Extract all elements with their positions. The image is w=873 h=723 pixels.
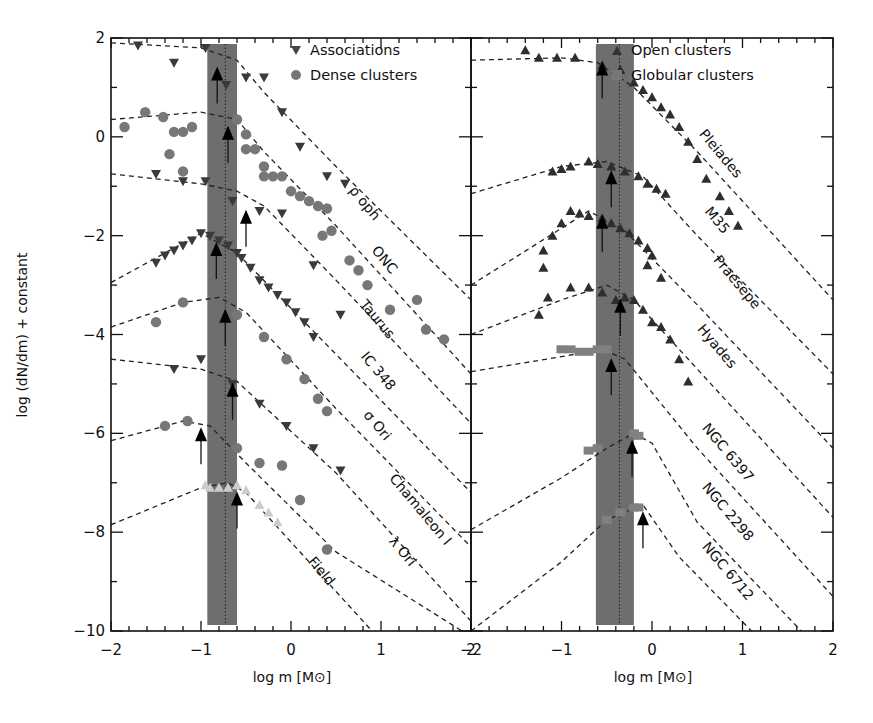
data-point-triangle-down (309, 261, 319, 270)
x-tick-label: −2 (460, 641, 482, 659)
data-point-triangle-up (715, 191, 725, 200)
fit-curve-chamaleon-i (111, 359, 471, 621)
x-tick-label: −1 (550, 641, 572, 659)
data-point-triangle-up (724, 206, 734, 215)
data-point-triangle-up (642, 243, 652, 252)
data-point-circle (259, 171, 269, 181)
curve-label: ρ oph (346, 182, 384, 223)
data-point-circle (187, 122, 197, 132)
data-point-square (593, 444, 603, 452)
legend-triangle-down-icon (291, 46, 301, 55)
data-point-triangle-down (196, 355, 206, 364)
data-point-circle (232, 310, 242, 320)
data-point-square (566, 345, 576, 353)
data-point-circle (412, 295, 422, 305)
data-point-triangle-up (264, 507, 274, 516)
data-point-circle (281, 354, 291, 364)
data-point-circle (232, 443, 242, 453)
right-panel: PleiadesM35PraesepeHyadesNGC 6397NGC 229… (460, 38, 838, 659)
data-point-triangle-up (566, 206, 576, 215)
data-point-triangle-up (633, 171, 643, 180)
data-point-circle (241, 129, 251, 139)
data-point-triangle-down (255, 276, 265, 285)
data-point-square (633, 503, 643, 511)
y-tick-label: 0 (95, 128, 105, 146)
data-point-circle (164, 149, 174, 159)
data-point-triangle-up (665, 334, 675, 343)
y-tick-label: 2 (95, 29, 105, 47)
data-point-triangle-down (178, 242, 188, 251)
fit-curve-onc (111, 112, 471, 374)
data-point-triangle-down (133, 41, 143, 50)
data-point-triangle-down (282, 298, 292, 307)
plot-frame (111, 38, 471, 631)
data-point-triangle-up (255, 500, 265, 509)
data-point-circle (322, 406, 332, 416)
data-point-circle (385, 305, 395, 315)
data-point-triangle-down (336, 311, 346, 320)
shaded-mass-band (207, 44, 237, 625)
data-point-triangle-up (584, 283, 594, 292)
data-point-circle (299, 374, 309, 384)
x-axis-label-right: log m [M⊙] (614, 669, 693, 685)
y-axis-label: log (dN/dm) + constant (14, 252, 30, 417)
data-point-circle (241, 144, 251, 154)
curve-label: NGC 6397 (699, 420, 757, 485)
data-point-triangle-down (169, 365, 179, 374)
legend-label: Open clusters (631, 42, 731, 58)
data-point-circle (322, 544, 332, 554)
legend-label: Globular clusters (631, 67, 754, 83)
data-point-circle (304, 196, 314, 206)
data-point-triangle-down (291, 308, 301, 317)
data-point-triangle-down (309, 333, 319, 342)
data-point-triangle-up (692, 154, 702, 163)
data-point-triangle-down (169, 246, 179, 255)
data-point-triangle-up (241, 485, 251, 494)
data-point-triangle-down (169, 59, 179, 68)
series-σ-ori (151, 297, 332, 416)
series-onc (119, 107, 449, 345)
legend-circle-icon (291, 70, 301, 80)
data-point-triangle-up (665, 110, 675, 119)
data-point-triangle-down (340, 180, 350, 189)
curve-label: Hyades (694, 321, 740, 371)
data-point-square (557, 345, 567, 353)
shaded-mass-band (596, 44, 634, 625)
data-point-circle (439, 334, 449, 344)
data-point-triangle-up (633, 236, 643, 245)
data-point-triangle-up (584, 157, 594, 166)
data-point-circle (158, 112, 168, 122)
legend-label: Dense clusters (310, 67, 417, 83)
data-point-circle (362, 280, 372, 290)
data-point-triangle-down (241, 74, 251, 83)
data-point-square (633, 432, 643, 440)
data-point-triangle-down (295, 143, 305, 152)
data-point-circle (344, 255, 354, 265)
data-point-triangle-up (647, 92, 657, 101)
data-point-circle (313, 201, 323, 211)
data-point-square (615, 508, 625, 516)
curve-label: λ Ori (386, 533, 420, 569)
legend-square-icon (612, 70, 622, 80)
curve-label: σ Ori (361, 407, 395, 443)
data-point-circle (160, 421, 170, 431)
data-point-circle (317, 230, 327, 240)
data-point-triangle-up (674, 122, 684, 131)
data-point-triangle-up (652, 184, 662, 193)
data-point-triangle-up (566, 283, 576, 292)
fit-curve-λ-ori (111, 421, 462, 631)
imf-figure: ρ ophONCTaurusIC 348σ OriChamaleon Iλ Or… (0, 0, 873, 723)
data-point-circle (326, 226, 336, 236)
data-point-triangle-down (151, 259, 161, 268)
data-point-triangle-up (683, 137, 693, 146)
y-tick-label: −10 (73, 622, 105, 640)
data-point-triangle-up (534, 310, 544, 319)
data-point-circle (178, 297, 188, 307)
curve-label: IC 348 (358, 348, 399, 393)
data-point-triangle-up (584, 211, 594, 220)
legend: AssociationsDense clusters (291, 42, 417, 83)
data-point-circle (313, 394, 323, 404)
data-point-circle (259, 161, 269, 171)
x-tick-label: 0 (286, 641, 296, 659)
data-point-square (602, 345, 612, 353)
